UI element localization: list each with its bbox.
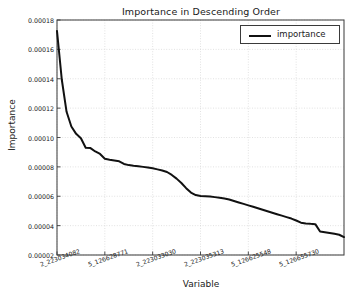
legend-label-importance: importance [277,29,326,39]
x-axis-tick-4: 5_126625548 [230,247,272,267]
x-axis-tick-2: 2_223033030 [135,247,177,267]
chart-legend: importance [240,25,340,44]
x-axis-tick-1: 5_126628771 [87,247,129,267]
x-axis-tick-3: 2_223035313 [183,247,225,267]
x-axis-tick-labels: 2_2230340825_1266287712_2230330302_22303… [0,0,360,303]
legend-swatch-importance [249,35,271,37]
x-axis-tick-5: 5_126655730 [278,247,320,267]
chart-figure: Importance in Descending Order Importanc… [0,0,360,303]
x-axis-tick-0: 2_223034082 [39,247,81,267]
